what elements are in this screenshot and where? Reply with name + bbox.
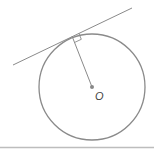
radius-segment: [72, 36, 92, 87]
center-label: O: [95, 90, 104, 102]
center-point: [90, 85, 94, 89]
tangent-diagram: O: [0, 0, 154, 151]
